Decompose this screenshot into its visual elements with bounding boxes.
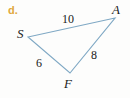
triangle-figure: d. A S F 10 6 8 bbox=[0, 0, 130, 98]
side-length-fa: 8 bbox=[91, 49, 97, 61]
side-length-sf: 6 bbox=[36, 57, 42, 69]
vertex-label-f: F bbox=[64, 77, 72, 90]
vertex-label-s: S bbox=[17, 27, 24, 40]
vertex-label-a: A bbox=[112, 3, 120, 16]
side-length-sa: 10 bbox=[62, 13, 74, 25]
